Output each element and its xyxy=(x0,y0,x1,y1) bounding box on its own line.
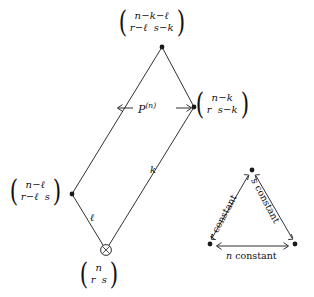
paren-close-left: ) xyxy=(53,179,61,204)
vertex-dot-left xyxy=(70,192,75,197)
matrix-right-r1c1: n−k xyxy=(212,93,233,103)
matrix-top-r2c2: s−k xyxy=(154,23,174,33)
matrix-bottom-r1c1: n xyxy=(96,263,103,273)
paren-open-right: ( xyxy=(196,92,204,117)
pn-superscript: (n) xyxy=(145,101,156,110)
matrix-left-r1c1: n−ℓ xyxy=(26,180,46,190)
paren-close-bottom: ) xyxy=(110,262,118,287)
matrix-right: ( n−k r s−k ) xyxy=(194,92,251,117)
legend-n-word: constant xyxy=(232,250,276,261)
edge-label-ell: ℓ xyxy=(90,213,94,223)
legend-dot-apex xyxy=(250,168,255,173)
paren-open-top: ( xyxy=(119,10,127,35)
matrix-left: ( n−ℓ r−ℓ s ) xyxy=(8,179,63,204)
paren-close-right: ) xyxy=(241,92,249,117)
matrix-bottom: ( n r s ) xyxy=(78,262,120,287)
matrix-top-r2c1: r−ℓ xyxy=(130,23,148,33)
paren-open-left: ( xyxy=(10,179,18,204)
vertex-dot-top xyxy=(160,45,165,50)
matrix-left-r2c1: r−ℓ xyxy=(21,192,39,202)
matrix-right-r2c1: r xyxy=(207,105,212,115)
legend-dot-bottom-right xyxy=(293,242,298,247)
matrix-left-r2c2: s xyxy=(45,192,50,202)
tensor-marker-icon xyxy=(101,245,112,256)
matrix-right-r2c2: s−k xyxy=(218,105,238,115)
legend-label-n-constant: n constant xyxy=(226,250,277,261)
figure-canvas: ( n−k−ℓ r−ℓ s−k ) ( n−k r s−k ) ( xyxy=(0,0,314,297)
arrow-label-pn: P(n) xyxy=(138,101,156,116)
legend-dot-bottom-left xyxy=(208,242,213,247)
edge-right-bottom xyxy=(106,107,194,250)
matrix-bottom-r2c1: r xyxy=(91,275,96,285)
paren-open-bottom: ( xyxy=(80,262,88,287)
matrix-bottom-r2c2: s xyxy=(102,275,107,285)
edge-bottom-left xyxy=(72,194,106,250)
edge-left-top xyxy=(72,47,162,194)
matrix-top: ( n−k−ℓ r−ℓ s−k ) xyxy=(117,10,187,35)
paren-close-top: ) xyxy=(176,10,184,35)
edge-top-right xyxy=(162,47,194,107)
matrix-top-r1c1: n−k−ℓ xyxy=(135,11,169,21)
edge-label-k: k xyxy=(150,165,156,175)
